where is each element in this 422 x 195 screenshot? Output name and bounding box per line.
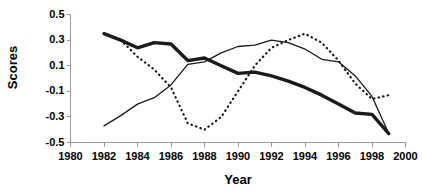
chart-line-dotted-series (121, 34, 389, 130)
y-tick-label: 0.3 (25, 34, 65, 45)
chart-line-thin-solid-series (104, 40, 389, 133)
y-tick-label: -0.1 (25, 85, 65, 96)
chart-axes (71, 15, 406, 143)
chart-series-lines (104, 34, 389, 134)
chart-line-thick-solid-series (104, 34, 389, 134)
y-tick-label: -0.3 (25, 111, 65, 122)
y-tick-label: 0.1 (25, 60, 65, 71)
x-tick-label: 2000 (386, 151, 422, 162)
chart-tick-marks (67, 15, 406, 147)
y-tick-label: -0.5 (25, 137, 65, 148)
x-axis-title: Year (70, 172, 406, 187)
y-tick-label: 0.5 (25, 9, 65, 20)
y-axis-title: Scores (5, 37, 20, 99)
